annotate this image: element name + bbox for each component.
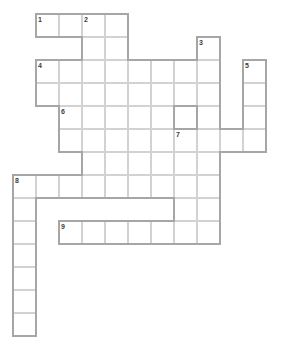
crossword-cell[interactable]: [36, 60, 59, 83]
grid-outline-left: [12, 174, 14, 199]
crossword-grid[interactable]: 123456789: [0, 0, 288, 347]
grid-outline-right: [219, 59, 221, 84]
grid-outline-right: [219, 197, 221, 222]
crossword-cell[interactable]: [128, 221, 151, 244]
grid-outline-top: [196, 36, 221, 38]
crossword-cell[interactable]: [82, 152, 105, 175]
crossword-cell[interactable]: [243, 106, 266, 129]
crossword-cell[interactable]: [59, 106, 82, 129]
crossword-cell[interactable]: [243, 83, 266, 106]
crossword-cell[interactable]: [82, 83, 105, 106]
crossword-cell[interactable]: [105, 37, 128, 60]
grid-outline-right: [265, 105, 267, 130]
crossword-cell[interactable]: [13, 267, 36, 290]
crossword-cell[interactable]: [197, 198, 220, 221]
crossword-cell[interactable]: [243, 60, 266, 83]
crossword-cell[interactable]: [59, 14, 82, 37]
crossword-cell[interactable]: [82, 129, 105, 152]
crossword-cell[interactable]: [82, 37, 105, 60]
crossword-cell[interactable]: [105, 152, 128, 175]
grid-outline-right: [35, 243, 37, 268]
crossword-cell[interactable]: [105, 83, 128, 106]
grid-outline-right: [35, 220, 37, 245]
grid-outline-top: [104, 13, 129, 15]
crossword-cell[interactable]: [13, 290, 36, 313]
crossword-cell[interactable]: [151, 221, 174, 244]
crossword-cell[interactable]: [59, 83, 82, 106]
crossword-cell[interactable]: [105, 60, 128, 83]
grid-outline-right: [127, 36, 129, 61]
crossword-cell[interactable]: [105, 14, 128, 37]
grid-outline-left: [12, 220, 14, 245]
grid-outline-top: [219, 128, 244, 130]
crossword-cell[interactable]: [197, 129, 220, 152]
grid-outline-left: [173, 197, 175, 222]
grid-outline-right: [35, 289, 37, 314]
crossword-cell[interactable]: [82, 221, 105, 244]
crossword-cell[interactable]: [82, 175, 105, 198]
crossword-cell[interactable]: [174, 60, 197, 83]
grid-outline-right: [265, 82, 267, 107]
crossword-cell[interactable]: [220, 129, 243, 152]
crossword-cell[interactable]: [59, 221, 82, 244]
grid-outline-top: [35, 13, 60, 15]
grid-outline-top: [58, 220, 83, 222]
crossword-cell[interactable]: [174, 152, 197, 175]
crossword-cell[interactable]: [13, 244, 36, 267]
crossword-cell[interactable]: [105, 106, 128, 129]
crossword-cell[interactable]: [174, 221, 197, 244]
crossword-cell[interactable]: [36, 14, 59, 37]
grid-outline-top: [81, 220, 106, 222]
crossword-cell[interactable]: [13, 221, 36, 244]
grid-outline-top: [104, 220, 129, 222]
crossword-cell[interactable]: [174, 83, 197, 106]
crossword-cell[interactable]: [197, 83, 220, 106]
grid-outline-bottom: [58, 36, 83, 38]
crossword-cell[interactable]: [105, 129, 128, 152]
crossword-cell[interactable]: [197, 106, 220, 129]
crossword-cell[interactable]: [82, 60, 105, 83]
crossword-cell[interactable]: [128, 60, 151, 83]
crossword-cell[interactable]: [151, 129, 174, 152]
crossword-cell[interactable]: [197, 37, 220, 60]
crossword-cell[interactable]: [128, 152, 151, 175]
crossword-cell[interactable]: [243, 129, 266, 152]
grid-outline-bottom: [81, 197, 106, 199]
crossword-cell[interactable]: [128, 83, 151, 106]
crossword-cell[interactable]: [36, 83, 59, 106]
grid-outline-top: [242, 59, 267, 61]
crossword-cell[interactable]: [197, 60, 220, 83]
crossword-cell[interactable]: [13, 198, 36, 221]
crossword-cell[interactable]: [197, 221, 220, 244]
crossword-cell[interactable]: [151, 106, 174, 129]
crossword-cell[interactable]: [128, 129, 151, 152]
grid-outline-right: [219, 82, 221, 107]
crossword-cell[interactable]: [128, 106, 151, 129]
crossword-cell[interactable]: [197, 152, 220, 175]
crossword-cell[interactable]: [59, 129, 82, 152]
crossword-cell[interactable]: [82, 106, 105, 129]
grid-outline-left: [196, 105, 198, 130]
crossword-cell[interactable]: [151, 83, 174, 106]
crossword-cell[interactable]: [197, 175, 220, 198]
crossword-cell[interactable]: [151, 152, 174, 175]
crossword-cell[interactable]: [59, 60, 82, 83]
grid-outline-bottom: [196, 243, 221, 245]
grid-outline-bottom: [173, 243, 198, 245]
crossword-cell[interactable]: [13, 313, 36, 336]
grid-outline-bottom: [104, 243, 129, 245]
crossword-cell[interactable]: [151, 175, 174, 198]
crossword-cell[interactable]: [105, 175, 128, 198]
crossword-cell[interactable]: [105, 221, 128, 244]
crossword-cell[interactable]: [174, 129, 197, 152]
grid-outline-right: [35, 197, 37, 222]
crossword-cell[interactable]: [174, 175, 197, 198]
crossword-cell[interactable]: [174, 198, 197, 221]
crossword-cell[interactable]: [82, 14, 105, 37]
crossword-cell[interactable]: [151, 60, 174, 83]
crossword-cell[interactable]: [36, 175, 59, 198]
crossword-cell[interactable]: [59, 175, 82, 198]
crossword-cell[interactable]: [13, 175, 36, 198]
grid-outline-left: [35, 82, 37, 107]
crossword-cell[interactable]: [128, 175, 151, 198]
